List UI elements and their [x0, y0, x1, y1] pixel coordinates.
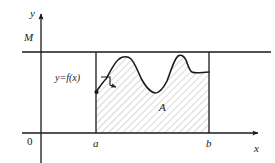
- origin-label: 0: [27, 135, 33, 147]
- area-under-curve-diagram: y M y=f(x) 0 a b A x: [0, 0, 275, 163]
- curve-start-point: [94, 90, 98, 94]
- area-label: A: [158, 101, 166, 113]
- upper-bound-label-m: M: [23, 31, 34, 43]
- left-bound-label-a: a: [93, 137, 99, 149]
- figure-container: y M y=f(x) 0 a b A x: [0, 0, 275, 163]
- y-axis-label: y: [29, 7, 35, 19]
- function-label: y=f(x): [54, 72, 81, 84]
- right-bound-label-b: b: [206, 137, 212, 149]
- x-axis-label: x: [253, 142, 259, 154]
